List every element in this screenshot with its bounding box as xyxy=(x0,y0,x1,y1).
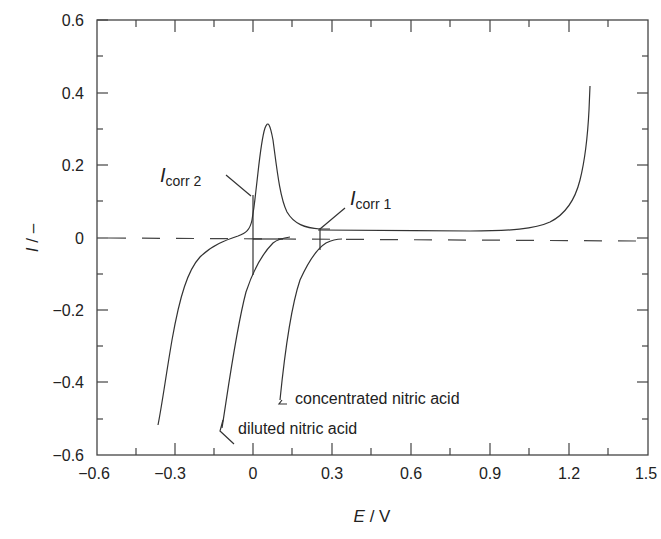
curve-concentrated-cathodic xyxy=(280,239,342,400)
icorr1-label: Icorr 1 xyxy=(350,187,392,212)
concentrated-leader xyxy=(279,400,287,404)
icorr2-label: Icorr 2 xyxy=(160,164,202,189)
svg-text:0.3: 0.3 xyxy=(321,465,343,482)
y-tick-labels: 0.6 0.4 0.2 0 −0.2 −0.4 −0.6 xyxy=(52,12,84,464)
x-tick-labels: −0.6 −0.3 0 0.3 0.6 0.9 1.2 1.5 xyxy=(78,465,657,482)
curve-diluted-anodic xyxy=(158,124,330,425)
svg-text:0.6: 0.6 xyxy=(400,465,422,482)
svg-text:−0.6: −0.6 xyxy=(78,465,110,482)
zero-reference-line xyxy=(108,238,637,241)
svg-text:0: 0 xyxy=(75,230,84,247)
icorr1-leader xyxy=(320,208,345,229)
svg-text:0.9: 0.9 xyxy=(479,465,501,482)
concentrated-nitric-acid-label: concentrated nitric acid xyxy=(295,390,460,407)
diluted-nitric-acid-label: diluted nitric acid xyxy=(238,420,357,437)
svg-text:0: 0 xyxy=(249,465,258,482)
svg-text:0.4: 0.4 xyxy=(62,85,84,102)
svg-text:1.5: 1.5 xyxy=(635,465,657,482)
svg-text:0.2: 0.2 xyxy=(62,157,84,174)
polarization-chart: 0.6 0.4 0.2 0 −0.2 −0.4 −0.6 −0.6 −0.3 0… xyxy=(0,0,661,539)
svg-text:1.2: 1.2 xyxy=(558,465,580,482)
diluted-leader xyxy=(220,420,234,444)
y-axis-title: I / – xyxy=(23,223,42,252)
y-axis-ticks xyxy=(97,20,648,419)
icorr2-leader xyxy=(226,175,251,196)
svg-text:−0.6: −0.6 xyxy=(52,447,84,464)
svg-text:0.6: 0.6 xyxy=(62,12,84,29)
svg-text:−0.3: −0.3 xyxy=(154,465,186,482)
svg-text:−0.2: −0.2 xyxy=(52,302,84,319)
svg-text:−0.4: −0.4 xyxy=(52,374,84,391)
x-axis-title: E / V xyxy=(354,507,392,526)
